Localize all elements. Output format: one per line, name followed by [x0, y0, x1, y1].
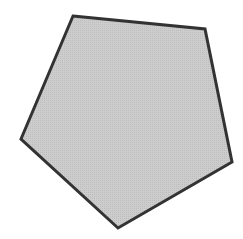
diagram-canvas: [0, 0, 243, 239]
pentagon-figure: [0, 0, 243, 239]
pentagon-shape: [21, 16, 232, 228]
